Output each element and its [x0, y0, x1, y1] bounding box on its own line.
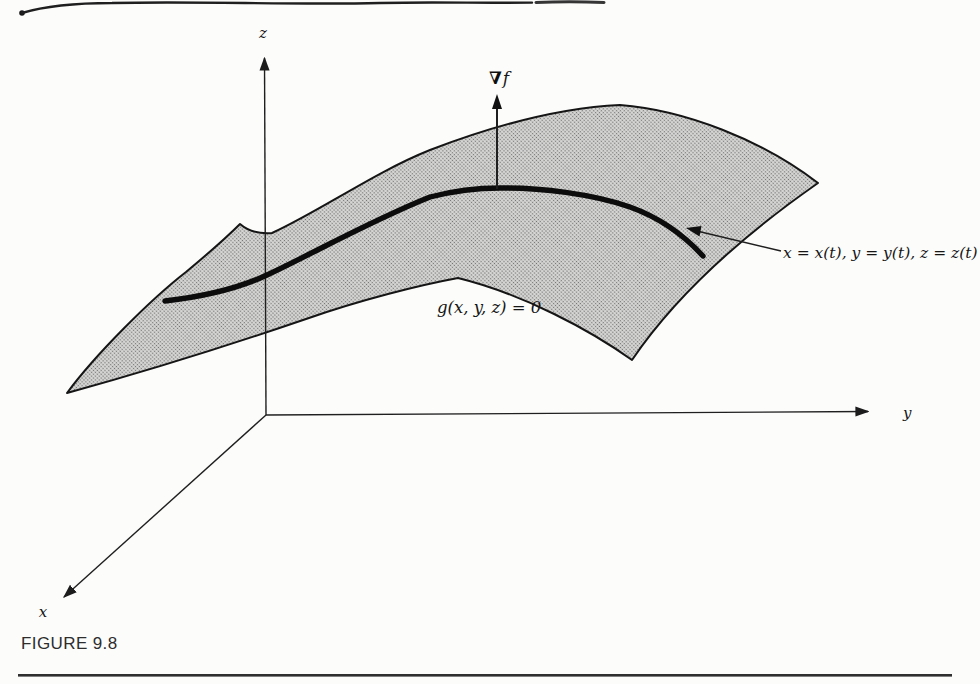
y-axis [266, 412, 868, 416]
surface-equation-label: g(x, y, z) = 0 [437, 298, 541, 317]
y-axis-label: y [902, 404, 912, 422]
top-hand-rule-stroke-end [536, 2, 604, 3]
x-axis [64, 415, 266, 597]
top-hand-rule [19, 2, 604, 16]
textbook-figure-page: z y x ∇f x = x(t), y = y(t), z = z(t) g(… [0, 0, 980, 684]
z-axis-label: z [258, 24, 267, 42]
top-hand-rule-stroke [22, 2, 532, 13]
figure-caption: FIGURE 9.8 [21, 634, 118, 653]
curve-annotation-label: x = x(t), y = y(t), z = z(t) [783, 244, 978, 262]
constraint-surface [67, 105, 818, 393]
gradient-label: ∇f [489, 68, 512, 88]
x-axis-label: x [39, 603, 48, 621]
bottom-rule [18, 674, 952, 677]
z-axis [265, 58, 267, 415]
